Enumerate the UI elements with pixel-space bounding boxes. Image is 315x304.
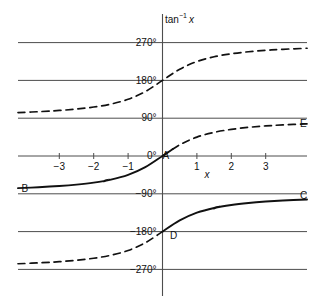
- x-axis-title: x: [204, 169, 211, 180]
- x-tick-label--2: −2: [88, 161, 100, 172]
- point-label-c: C: [300, 190, 307, 201]
- y-axis-title-variable: x: [188, 14, 195, 25]
- point-label-a: A: [163, 150, 170, 161]
- y-axis-title-main: tan: [165, 14, 179, 25]
- y-tick-label-180: 180°: [136, 75, 157, 86]
- point-label-b: B: [21, 183, 28, 194]
- arctan-plot-svg: 270°180°90°0°−90°−180°−270° −3−2−1123 AB…: [0, 0, 315, 304]
- x-tick-label--3: −3: [54, 161, 66, 172]
- y-tick-label--180: −180°: [130, 226, 157, 237]
- y-tick-label--270: −270°: [130, 264, 157, 275]
- y-axis-title-exponent: −1: [179, 12, 187, 19]
- y-tick-label--90: −90°: [136, 188, 157, 199]
- plot-background: [0, 0, 315, 304]
- point-label-e: E: [300, 118, 307, 129]
- point-label-d: D: [170, 230, 177, 241]
- arctan-graph-figure: 270°180°90°0°−90°−180°−270° −3−2−1123 AB…: [0, 0, 315, 304]
- x-tick-label-3: 3: [263, 161, 269, 172]
- x-tick-label-2: 2: [229, 161, 235, 172]
- y-tick-label-270: 270°: [136, 37, 157, 48]
- y-tick-label-0: 0°: [147, 150, 157, 161]
- x-tick-label-1: 1: [194, 161, 200, 172]
- y-tick-label-90: 90°: [141, 112, 156, 123]
- x-tick-label--1: −1: [122, 161, 134, 172]
